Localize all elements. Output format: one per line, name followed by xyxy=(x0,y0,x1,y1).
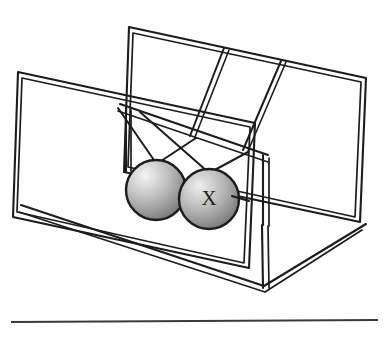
top-rail-outer xyxy=(120,104,268,155)
figure-root: X xyxy=(0,0,386,338)
horizontal-rule xyxy=(11,320,378,322)
ball-right-label: X xyxy=(201,186,216,210)
right-side-connector xyxy=(263,155,269,226)
wire-back-b2 xyxy=(248,62,286,151)
wire-left-ball-back xyxy=(158,138,196,163)
pendulum-figure-svg: X xyxy=(0,0,386,338)
pendulum-ball-left xyxy=(126,160,186,220)
wire-back-b1 xyxy=(243,61,281,150)
ball-left-circle xyxy=(126,160,186,220)
wire-back-a1 xyxy=(190,48,224,136)
pendulum-ball-right: X xyxy=(179,169,239,229)
base-post-outer xyxy=(262,225,263,288)
base-post-inner xyxy=(268,226,269,288)
wire-back-a2 xyxy=(195,50,229,137)
